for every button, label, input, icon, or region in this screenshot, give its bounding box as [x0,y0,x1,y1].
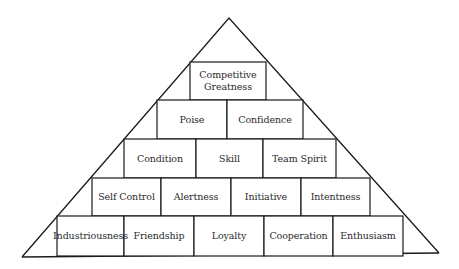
block-label: Enthusiasm [333,216,403,256]
block-label: Self Control [92,178,161,216]
block-label: Skill [196,139,263,178]
block-label: Competitive Greatness [190,62,266,100]
block-label: Team Spirit [263,139,336,178]
block-label: Alertness [161,178,231,216]
block-label: Poise [157,100,227,139]
block-label: Cooperation [264,216,333,256]
block-label: Loyalty [194,216,264,256]
block-label: Industriousness [57,216,124,256]
block-label: Intentness [301,178,370,216]
block-label: Condition [124,139,196,178]
pyramid-diagram: Competitive GreatnessPoiseConfidenceCond… [0,0,459,269]
block-label: Friendship [124,216,194,256]
block-label: Initiative [231,178,301,216]
block-label: Confidence [227,100,303,139]
